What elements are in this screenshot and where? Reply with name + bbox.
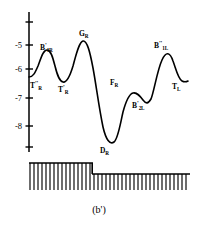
y-axis-label--7: -7 (15, 93, 22, 103)
y-axis-label--6: -6 (15, 64, 22, 74)
annotation-t2r: T''R (30, 82, 42, 90)
figure-caption: (b') (0, 204, 198, 215)
comb-right-group (92, 174, 190, 190)
annotation-fr: FR (110, 79, 118, 87)
comb-left-group (29, 163, 93, 190)
annotation-gr: GR (79, 30, 88, 38)
y-axis-label--8: -8 (15, 121, 22, 131)
y-axis-label--5: -5 (15, 40, 22, 50)
plot-canvas: -5 -6 -7 -8 (0, 0, 198, 226)
annotation-t1r: T'R (58, 86, 68, 94)
annotation-dr: DR (100, 147, 109, 155)
annotation-b1r: B'1R (40, 44, 53, 52)
energy-curve (29, 41, 188, 143)
annotation-b1l: B''1L (154, 42, 168, 50)
energy-curve-group (29, 41, 188, 143)
annotation-tl: TL (172, 83, 180, 91)
figure-container: -5 -6 -7 -8 (0, 0, 198, 226)
annotation-b2l: B'2L (132, 102, 144, 110)
